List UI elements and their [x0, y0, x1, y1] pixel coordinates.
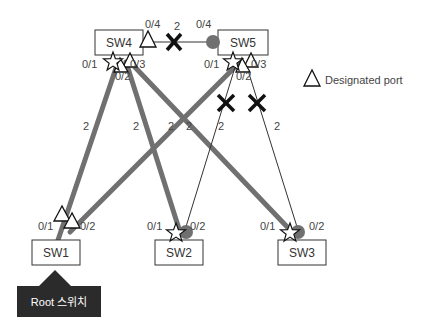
port-label: 0/3: [130, 58, 145, 70]
port-label: 0/1: [204, 58, 219, 70]
sw2-label: SW2: [166, 246, 192, 260]
port-label: 0/1: [260, 220, 275, 232]
sw1-label: SW1: [43, 246, 69, 260]
legend-triangle-icon: [304, 70, 320, 86]
port-label: 0/2: [236, 70, 251, 82]
active-links: [58, 62, 292, 240]
sw3-label: SW3: [289, 246, 315, 260]
link-cost: 2: [218, 120, 224, 132]
switch-sw3: SW3: [278, 240, 326, 265]
port-label: 0/2: [309, 220, 324, 232]
sw4-label: SW4: [106, 36, 132, 50]
port-label: 0/4: [145, 18, 160, 30]
sw5-label: SW5: [230, 36, 256, 50]
root-port-star-icon: [167, 223, 186, 241]
port-label: 0/2: [115, 70, 130, 82]
root-label: Root 스위치: [31, 296, 87, 308]
port-label: 0/4: [196, 18, 211, 30]
port-label: 0/1: [38, 220, 53, 232]
port-label: 0/1: [82, 58, 97, 70]
root-arrow-icon: [39, 270, 71, 286]
switch-sw1: SW1: [32, 240, 80, 265]
port-label: 0/2: [80, 220, 95, 232]
link-cost: 2: [168, 120, 174, 132]
switch-sw5: SW5: [218, 30, 268, 55]
stp-diagram: SW4 SW5 SW1 SW2 SW3: [0, 0, 422, 329]
legend-label: Designated port: [325, 74, 403, 86]
port-label: 0/2: [190, 220, 205, 232]
link-cost: 2: [174, 20, 180, 32]
link-cost: 2: [274, 120, 280, 132]
link-sw3-sw5: [246, 64, 298, 230]
link-cost: 2: [133, 120, 139, 132]
link-cost: 2: [83, 120, 89, 132]
blocked-x-icon: [249, 95, 265, 111]
port-label: 0/1: [147, 220, 162, 232]
port-label: 0/3: [251, 58, 266, 70]
blocked-port-icon: [206, 35, 220, 49]
switch-sw2: SW2: [155, 240, 203, 265]
link-cost: 2: [186, 120, 192, 132]
switch-sw4: SW4: [95, 30, 143, 55]
